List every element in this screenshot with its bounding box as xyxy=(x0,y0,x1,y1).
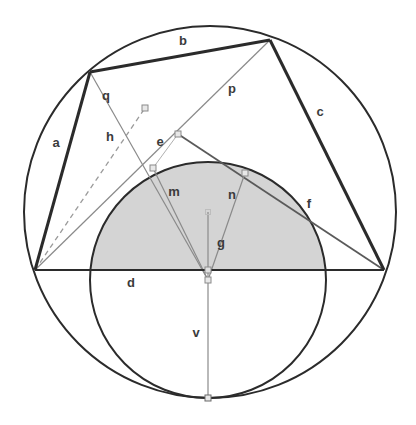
marker-bottom-tangency xyxy=(205,395,211,401)
label-c: c xyxy=(316,104,323,119)
label-m: m xyxy=(168,184,180,199)
marker-chord-center xyxy=(205,267,211,273)
label-b: b xyxy=(179,33,187,48)
marker-mid-q xyxy=(142,105,148,111)
geometry-canvas: a b c d e f g h m n p q v xyxy=(0,0,416,425)
label-a: a xyxy=(52,135,60,150)
label-d: d xyxy=(127,275,135,290)
label-e: e xyxy=(156,134,163,149)
segment-a xyxy=(35,72,90,270)
marker-foot-m xyxy=(150,165,156,171)
marker-inner-center xyxy=(205,277,211,283)
marker-foot-n xyxy=(242,170,248,176)
label-v: v xyxy=(192,325,200,340)
label-h: h xyxy=(106,129,114,144)
label-g: g xyxy=(217,235,225,250)
geometry-diagram: a b c d e f g h m n p q v xyxy=(0,0,416,425)
marker-crossing-e xyxy=(175,131,181,137)
label-n: n xyxy=(228,187,236,202)
label-f: f xyxy=(307,196,312,211)
label-p: p xyxy=(228,81,236,96)
label-q: q xyxy=(102,88,110,103)
